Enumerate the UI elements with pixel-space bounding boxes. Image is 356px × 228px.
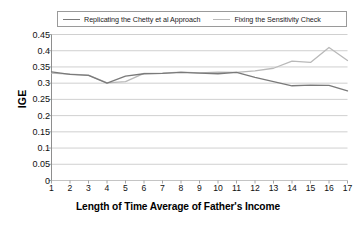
x-tick-label: 11: [232, 183, 241, 193]
x-tick-label: 9: [197, 183, 202, 193]
y-tick-label: 0.15: [16, 127, 50, 137]
legend-entry-fixing: Fixing the Sensitivity Check: [213, 15, 320, 24]
y-tick-label: 0.3: [16, 78, 50, 88]
x-tick-label: 1: [49, 183, 54, 193]
y-tick-label: 0.45: [16, 30, 50, 40]
series-line-fixing: [52, 47, 348, 82]
x-tick-label: 14: [287, 183, 297, 193]
x-tick-label: 7: [160, 183, 165, 193]
chart-figure: Replicating the Chetty et al Approach Fi…: [0, 0, 356, 228]
x-tick-label: 6: [142, 183, 147, 193]
x-tick-label: 3: [86, 183, 91, 193]
x-tick-label: 2: [68, 183, 73, 193]
y-tick-label: 0.1: [16, 143, 50, 153]
y-tick-label: 0.35: [16, 62, 50, 72]
y-axis-tick-labels: 00.050.10.150.20.250.30.350.40.45: [14, 0, 50, 228]
chart-legend: Replicating the Chetty et al Approach Fi…: [57, 11, 347, 27]
series-line-replicating: [52, 72, 348, 91]
y-tick-label: 0.2: [16, 111, 50, 121]
x-tick-label: 12: [250, 183, 260, 193]
legend-label-fixing: Fixing the Sensitivity Check: [234, 15, 320, 24]
y-tick-label: 0.4: [16, 46, 50, 56]
y-tick-label: 0: [16, 176, 50, 186]
x-tick-label: 4: [105, 183, 110, 193]
x-tick-label: 8: [179, 183, 184, 193]
legend-entry-replicating: Replicating the Chetty et al Approach: [63, 15, 200, 24]
x-tick-label: 17: [343, 183, 353, 193]
x-axis-title: Length of Time Average of Father's Incom…: [0, 201, 356, 212]
x-tick-label: 13: [269, 183, 279, 193]
plot-area: [0, 0, 356, 228]
x-tick-label: 15: [306, 183, 316, 193]
y-tick-label: 0.05: [16, 159, 50, 169]
x-tick-label: 5: [123, 183, 128, 193]
legend-swatch-fixing: [213, 19, 230, 20]
x-tick-label: 16: [324, 183, 334, 193]
y-tick-label: 0.25: [16, 94, 50, 104]
x-tick-label: 10: [213, 183, 223, 193]
legend-label-replicating: Replicating the Chetty et al Approach: [84, 15, 200, 24]
legend-swatch-replicating: [63, 19, 80, 20]
